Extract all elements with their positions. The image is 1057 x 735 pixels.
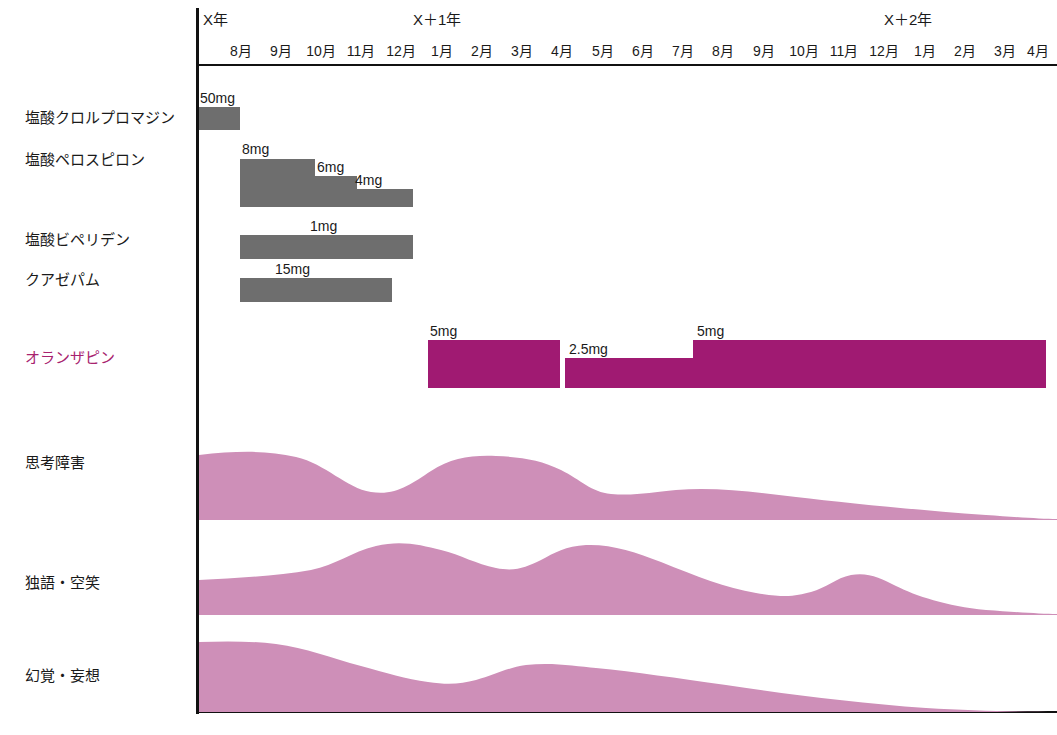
dose-label-olanzapine-5mg-second: 5mg	[697, 324, 724, 338]
bar-olanzapine-5mg-first	[428, 340, 560, 388]
row-label-olanzapine: オランザピン	[25, 350, 115, 365]
month-label-8: 4月	[542, 44, 582, 58]
row-label-quazepam: クアゼパム	[25, 272, 100, 287]
month-label-2: 10月	[301, 44, 341, 58]
month-label-10: 6月	[623, 44, 663, 58]
bar-perospirone-6mg	[315, 176, 357, 207]
month-label-17: 1月	[905, 44, 945, 58]
month-label-9: 5月	[583, 44, 623, 58]
dose-label-perospirone-6mg: 6mg	[317, 160, 344, 174]
row-label-perospirone: 塩酸ペロスピロン	[25, 152, 145, 167]
month-label-15: 11月	[824, 44, 864, 58]
year-label-1: X＋1年	[413, 12, 461, 27]
month-label-1: 9月	[261, 44, 301, 58]
bar-biperiden-1mg	[240, 235, 413, 259]
month-label-18: 2月	[945, 44, 985, 58]
month-label-20: 4月	[1019, 44, 1057, 58]
bar-olanzapine-5mg-second	[693, 340, 1046, 388]
year-label-2: X＋2年	[884, 12, 932, 27]
month-label-0: 8月	[221, 44, 261, 58]
row-label-hallucination: 幻覚・妄想	[25, 668, 100, 683]
bar-perospirone-8mg	[240, 159, 315, 207]
year-label-0: X年	[203, 12, 228, 27]
medication-timeline-chart: X年 X＋1年 X＋2年 8月 9月 10月 11月 12月 1月 2月 3月 …	[0, 0, 1057, 735]
month-label-12: 8月	[703, 44, 743, 58]
wave-soliloquy	[196, 520, 1057, 615]
dose-label-perospirone-4mg: 4mg	[355, 173, 382, 187]
dose-label-olanzapine-5mg-first: 5mg	[430, 324, 457, 338]
dose-label-biperiden-1mg: 1mg	[310, 219, 337, 233]
bar-chlorpromazine-50mg	[199, 107, 240, 130]
month-label-13: 9月	[744, 44, 784, 58]
month-label-16: 12月	[864, 44, 904, 58]
month-label-7: 3月	[502, 44, 542, 58]
row-label-biperiden: 塩酸ビペリデン	[25, 232, 130, 247]
bar-olanzapine-2.5mg	[565, 358, 693, 388]
bar-perospirone-4mg	[357, 189, 413, 207]
month-label-5: 1月	[422, 44, 462, 58]
wave-hallucination	[196, 630, 1057, 712]
dose-label-perospirone-8mg: 8mg	[242, 142, 269, 156]
x-axis-top-line	[196, 64, 1057, 66]
row-label-chlorpromazine: 塩酸クロルプロマジン	[25, 110, 175, 125]
bar-quazepam-15mg	[240, 278, 392, 302]
month-label-11: 7月	[663, 44, 703, 58]
dose-label-olanzapine-2.5mg: 2.5mg	[569, 342, 608, 356]
month-label-4: 12月	[381, 44, 421, 58]
month-label-6: 2月	[462, 44, 502, 58]
dose-label-chlorpromazine-50mg: 50mg	[200, 91, 235, 105]
row-label-soliloquy: 独語・空笑	[25, 575, 100, 590]
row-label-thought-disorder: 思考障害	[25, 455, 85, 470]
month-label-14: 10月	[784, 44, 824, 58]
dose-label-quazepam-15mg: 15mg	[275, 262, 310, 276]
wave-thought-disorder	[196, 430, 1057, 520]
month-label-3: 11月	[341, 44, 381, 58]
